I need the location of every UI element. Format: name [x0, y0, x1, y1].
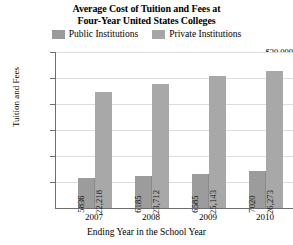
bar-chart: Average Cost of Tuition and Fees at Four…: [0, 0, 293, 245]
bar-public-2009: 6585: [192, 174, 209, 209]
x-tick-label-2007: 2007: [71, 212, 117, 222]
bar-public-2008: 6185: [135, 176, 152, 208]
plot-area: 5836 22,218 6185 23,712 6585 25,143: [55, 52, 293, 209]
bar-group-2007: 5836 22,218: [78, 52, 112, 208]
y-axis-title: Tuition and Fees: [11, 42, 21, 152]
bar-public-2010: 7020: [249, 171, 266, 208]
bar-private-2010: 26,273: [266, 71, 283, 209]
legend-swatch-public-icon: [52, 30, 65, 39]
bar-group-2008: 6185 23,712: [135, 52, 169, 208]
chart-title: Average Cost of Tuition and Fees at Four…: [0, 3, 293, 27]
bar-value-public-2010: 7020: [247, 195, 257, 212]
legend-swatch-private-icon: [152, 30, 165, 39]
bar-value-private-2008: 23,712: [151, 190, 161, 214]
bar-value-private-2007: 22,218: [94, 190, 104, 214]
bar-value-public-2009: 6585: [190, 195, 200, 212]
x-tick-label-2009: 2009: [185, 212, 231, 222]
bar-group-2009: 6585 25,143: [192, 52, 226, 208]
chart-title-line-1: Average Cost of Tuition and Fees at: [73, 3, 221, 14]
chart-title-line-2: Four-Year United States Colleges: [0, 15, 293, 27]
x-axis-title: Ending Year in the School Year: [0, 227, 293, 237]
bar-public-2007: 5836: [78, 178, 95, 209]
legend-label-private: Private Institutions: [169, 29, 241, 39]
legend-item-private: Private Institutions: [152, 29, 241, 39]
bar-group-2010: 7020 26,273: [249, 52, 283, 208]
legend-label-public: Public Institutions: [69, 29, 138, 39]
chart-legend: Public Institutions Private Institutions: [0, 29, 293, 39]
x-tick-label-2010: 2010: [242, 212, 288, 222]
legend-item-public: Public Institutions: [52, 29, 138, 39]
x-tick-label-2008: 2008: [128, 212, 174, 222]
bar-private-2009: 25,143: [209, 76, 226, 208]
bar-private-2007: 22,218: [95, 92, 112, 208]
bar-value-public-2007: 5836: [76, 195, 86, 212]
bar-private-2008: 23,712: [152, 84, 169, 208]
bar-value-private-2009: 25,143: [208, 190, 218, 214]
bar-value-private-2010: 26,273: [265, 190, 275, 214]
bar-value-public-2008: 6185: [133, 195, 143, 212]
